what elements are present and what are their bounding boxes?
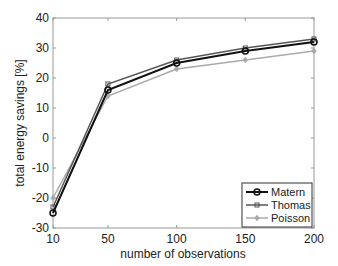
x-axis-label: number of observations <box>120 247 245 261</box>
y-tick-label: 10 <box>36 101 50 115</box>
y-axis-label: total energy savings [%] <box>13 59 27 186</box>
y-tick-label: 40 <box>36 11 50 25</box>
x-tick-label: 100 <box>167 232 187 246</box>
legend-label: Matern <box>271 186 305 198</box>
legend: MaternThomasPoisson <box>242 183 312 227</box>
x-tick-label: 50 <box>101 232 115 246</box>
y-tick-label: 30 <box>36 41 50 55</box>
y-tick-label: 0 <box>42 131 49 145</box>
line-chart: -30-20-10010203040 1050100150200 number … <box>0 0 338 266</box>
legend-label: Poisson <box>271 212 310 224</box>
x-tick-label: 200 <box>304 232 324 246</box>
y-tick-label: -10 <box>32 161 50 175</box>
y-tick-label: 20 <box>36 71 50 85</box>
legend-label: Thomas <box>271 199 311 211</box>
y-tick-label: -20 <box>32 191 50 205</box>
x-tick-label: 150 <box>235 232 255 246</box>
x-tick-label: 10 <box>46 232 60 246</box>
